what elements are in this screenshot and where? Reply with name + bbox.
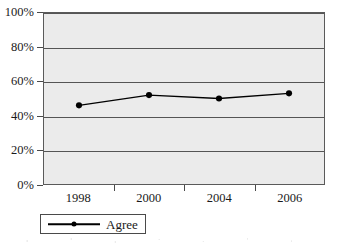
data-point-2004 — [216, 95, 222, 101]
x-tick-label-2006: 2006 — [277, 192, 302, 205]
y-axis: 0%20%40%60%80%100% — [0, 0, 39, 197]
line-chart: 0%20%40%60%80%100% 1998200020042006 Agre… — [0, 0, 339, 245]
y-tick-mark-80 — [37, 47, 43, 48]
y-tick-label-60: 60% — [11, 75, 34, 88]
y-tick-mark-20 — [37, 150, 43, 151]
data-point-2000 — [146, 92, 152, 98]
scan-speckle-artifact — [0, 235, 339, 245]
x-tick-label-1998: 1998 — [66, 192, 91, 205]
legend-item-label-agree: Agree — [106, 218, 138, 231]
y-tick-label-0: 0% — [17, 179, 34, 192]
x-tick-label-2004: 2004 — [207, 192, 232, 205]
y-tick-label-20: 20% — [11, 144, 34, 157]
legend-line-marker-icon — [48, 218, 100, 230]
y-tick-mark-40 — [37, 116, 43, 117]
y-tick-mark-60 — [37, 81, 43, 82]
series-agree — [44, 13, 324, 184]
chart-legend: Agree — [40, 214, 146, 234]
y-tick-label-100: 100% — [5, 6, 34, 19]
plot-area — [43, 12, 325, 185]
data-point-1998 — [76, 102, 82, 108]
x-tick-mark-1 — [114, 185, 115, 191]
y-tick-label-80: 80% — [11, 40, 34, 53]
series-line-agree — [79, 93, 289, 105]
data-point-2006 — [286, 90, 292, 96]
y-tick-label-40: 40% — [11, 110, 34, 123]
y-tick-mark-0 — [37, 185, 43, 186]
y-tick-mark-100 — [37, 12, 43, 13]
x-tick-mark-2 — [184, 185, 185, 191]
x-tick-mark-3 — [255, 185, 256, 191]
x-tick-label-2000: 2000 — [136, 192, 161, 205]
